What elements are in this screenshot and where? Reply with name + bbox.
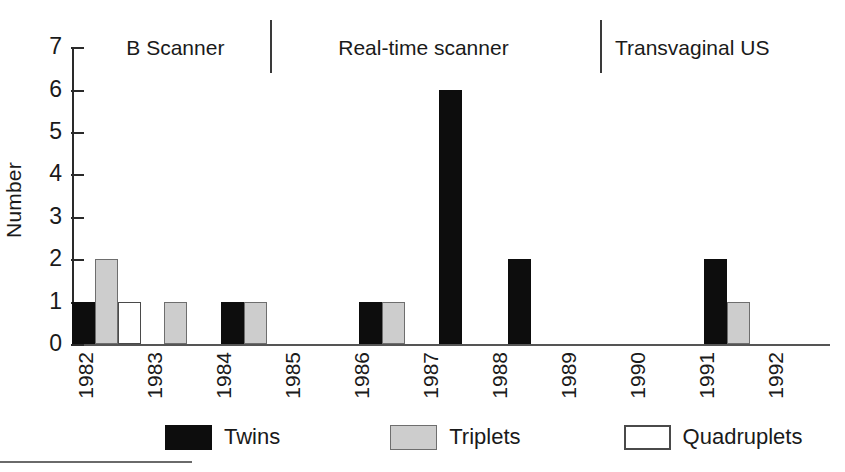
bars-row (72, 47, 141, 344)
bars-row (554, 47, 623, 344)
y-axis-title: Number (2, 140, 26, 260)
x-tick-label-1990: 1990 (627, 352, 649, 414)
y-tick-label: 2 (49, 246, 62, 270)
x-tick-label-1987: 1987 (420, 352, 442, 414)
legend-item-triplets: Triplets (390, 424, 520, 450)
legend-item-quadruplets: Quadruplets (624, 424, 803, 450)
x-tick-label-1989: 1989 (558, 352, 580, 414)
year-group-1982 (72, 48, 141, 345)
legend-label-triplets: Triplets (449, 424, 520, 450)
footer-divider (0, 461, 192, 463)
year-group-1989 (554, 48, 623, 345)
year-group-1984 (210, 48, 279, 345)
x-tick-label-1984: 1984 (213, 352, 235, 414)
bar-1986-twins (359, 302, 382, 344)
bars-row (279, 47, 348, 344)
legend-item-twins: Twins (165, 424, 280, 450)
bar-1991-twins (704, 259, 727, 344)
bars-row (210, 47, 279, 344)
x-tick-label-1988: 1988 (489, 352, 511, 414)
bars-row (485, 47, 554, 344)
bar-1984-twins (221, 302, 244, 344)
x-tick-label-1983: 1983 (144, 352, 166, 414)
bars-row (692, 47, 761, 344)
plot-area: 76543210 (72, 48, 830, 345)
bar-1982-triplets (95, 259, 118, 344)
legend-label-quadruplets: Quadruplets (683, 424, 803, 450)
legend-swatch-triplets (390, 425, 437, 450)
x-tick-label-1991: 1991 (696, 352, 718, 414)
x-tick-label-1992: 1992 (765, 352, 787, 414)
bar-1986-triplets (382, 302, 405, 344)
y-tick-label: 5 (49, 119, 62, 143)
chart-legend: TwinsTripletsQuadruplets (165, 424, 802, 450)
bars-row (761, 47, 830, 344)
year-group-1986 (348, 48, 417, 345)
bar-1984-triplets (244, 302, 267, 344)
x-tick-label-1985: 1985 (282, 352, 304, 414)
bar-1983-triplets (164, 302, 187, 344)
year-group-1983 (141, 48, 210, 345)
bars-row (141, 47, 210, 344)
y-tick-label: 4 (49, 161, 62, 185)
year-group-1991 (692, 48, 761, 345)
bars-row (348, 47, 417, 344)
bars-row (623, 47, 692, 344)
legend-swatch-quadruplets (624, 425, 671, 450)
bar-1982-twins (72, 302, 95, 344)
year-group-1992 (761, 48, 830, 345)
y-tick-label: 3 (49, 204, 62, 228)
year-group-1985 (279, 48, 348, 345)
year-group-1990 (623, 48, 692, 345)
bars-row (417, 47, 486, 344)
year-group-1987 (417, 48, 486, 345)
legend-label-twins: Twins (224, 424, 280, 450)
bar-1988-twins (508, 259, 531, 344)
y-tick-label: 6 (49, 77, 62, 101)
bar-1991-triplets (727, 302, 750, 344)
y-tick-label: 0 (49, 331, 62, 355)
x-tick-label-1986: 1986 (351, 352, 373, 414)
year-group-1988 (485, 48, 554, 345)
bar-1982-quadruplets (118, 302, 141, 344)
legend-swatch-twins (165, 425, 212, 450)
x-tick-label-1982: 1982 (75, 352, 97, 414)
y-tick-label: 7 (49, 34, 62, 58)
bar-1987-twins (439, 90, 462, 344)
y-tick-label: 1 (49, 289, 62, 313)
